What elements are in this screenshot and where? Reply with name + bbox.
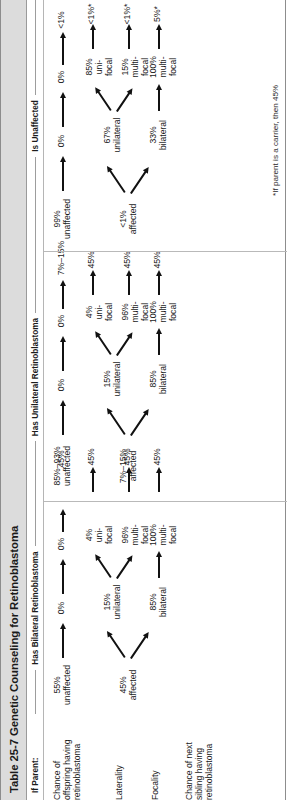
uni-focality-from-bilateral: 100% multi- focal: [148, 297, 178, 327]
un-arrow-uni-to-unifocal: [93, 86, 110, 111]
table-body: Chance of offspring having retinoblastom…: [44, 0, 286, 800]
row-label-header: If Parent:: [27, 714, 43, 800]
bi-arrow-affected-to-bilateral: [130, 630, 149, 658]
row-label-sibling: Chance of next sibling having retinoblas…: [184, 714, 214, 800]
uni-arrow-uni-to-unifocal: [93, 330, 110, 355]
header-rule-right: [35, 0, 36, 95]
column-header-unaffected-label: Is Unaffected: [31, 100, 40, 151]
un-unaffected-laterality: 0%: [56, 129, 66, 153]
bi-focality-from-bilateral: 100% multi- focal: [148, 520, 178, 550]
uni-affected: 7%–15% affected: [118, 439, 138, 493]
un-arrow-affected-to-unilateral: [105, 165, 124, 193]
row-label-laterality: Laterality: [114, 714, 124, 800]
un-sibling-unifocal: <1%*: [86, 0, 96, 29]
un-laterality-bilateral: 33% bilateral: [148, 113, 168, 157]
un-focality-multifocal: 15% multi- focal: [120, 51, 150, 83]
un-arrow-uni-to-multifocal: [116, 86, 133, 111]
bi-focality-multifocal: 96% multi- focal: [120, 520, 150, 550]
un-arrow-affected-to-bilateral: [130, 165, 149, 193]
column-header-unilateral: Has Unilateral Retinoblastoma: [27, 252, 43, 502]
bi-arrow-affected-to-unilateral: [105, 630, 124, 658]
row-label-focality: Focality: [150, 714, 160, 800]
bi-unaffected-focality: 0%: [56, 532, 66, 556]
uni-focality-multifocal: 96% multi- focal: [120, 297, 150, 327]
table-title-bar: Table 25-7 Genetic Counseling for Retino…: [1, 0, 27, 800]
un-affected: <1% affected: [118, 195, 138, 243]
table-footnote: *If parent is a carrier, then 45%: [271, 85, 280, 196]
column-header-bilateral: Has Bilateral Retinoblastoma: [27, 502, 43, 714]
uni-laterality-bilateral: 85% bilateral: [148, 357, 168, 401]
uni-unaffected-focality: 0%: [56, 309, 66, 333]
un-laterality-unilateral: 67% unilateral: [102, 113, 122, 157]
un-unaffected: 99% unaffected: [52, 195, 72, 243]
uni-arrow-affected-to-unilateral: [105, 407, 124, 435]
row-label-column: Chance of offspring having retinoblastom…: [44, 714, 286, 800]
header-rule-left: [35, 670, 36, 714]
bi-arrow-uni-to-unifocal: [93, 553, 110, 578]
row-label-offspring: Chance of offspring having retinoblastom…: [52, 714, 82, 800]
data-column-unilateral: 85%–93% unaffected 0% 0% 7%–15% affected: [44, 252, 286, 502]
uni-unaffected-laterality: 0%: [56, 373, 66, 397]
un-sibling-from-bilateral: 5%*: [152, 0, 162, 29]
header-rule-right: [35, 252, 36, 313]
uni-focality-unifocal: 4% uni- focal: [84, 297, 114, 327]
data-column-unaffected: 99% unaffected 0% 0% <1% <1% affected: [44, 0, 286, 252]
un-sibling-multifocal: <1%*: [122, 0, 132, 29]
uni-arrow-affected-to-bilateral: [130, 407, 149, 435]
bi-laterality-bilateral: 85% bilateral: [148, 580, 168, 624]
column-header-band: If Parent: Has Bilateral Retinoblastoma …: [27, 0, 44, 800]
bi-affected: 45% affected: [118, 662, 138, 708]
uni-unaffected: 85%–93% unaffected: [52, 439, 72, 493]
un-sibling-unaffected: <1%: [56, 5, 66, 35]
un-unaffected-focality: 0%: [56, 65, 66, 89]
column-header-unilateral-label: Has Unilateral Retinoblastoma: [31, 318, 40, 436]
uni-arrow-uni-to-multifocal: [116, 330, 133, 355]
un-focality-unifocal: 85% uni- focal: [84, 51, 114, 83]
header-rule-right: [35, 502, 36, 546]
genetic-counseling-table: Table 25-7 Genetic Counseling for Retino…: [0, 0, 286, 800]
bi-unaffected: 55% unaffected: [52, 662, 72, 708]
un-focality-from-bilateral: 100% multi- focal: [148, 51, 178, 83]
table-title: Table 25-7 Genetic Counseling for Retino…: [8, 526, 20, 793]
header-rule-left: [35, 441, 36, 502]
column-header-unaffected: Is Unaffected: [27, 0, 43, 252]
bi-laterality-unilateral: 15% unilateral: [102, 580, 122, 624]
bi-arrow-uni-to-multifocal: [116, 553, 133, 578]
data-column-bilateral: 55% unaffected 0% 0% 45% affected: [44, 502, 286, 714]
bi-focality-unifocal: 4% uni- focal: [84, 520, 114, 550]
bi-unaffected-laterality: 0%: [56, 596, 66, 620]
column-header-bilateral-label: Has Bilateral Retinoblastoma: [31, 551, 40, 664]
uni-laterality-unilateral: 15% unilateral: [102, 357, 122, 401]
rotated-table-stage: Table 25-7 Genetic Counseling for Retino…: [0, 0, 286, 800]
header-rule-left: [35, 157, 36, 252]
